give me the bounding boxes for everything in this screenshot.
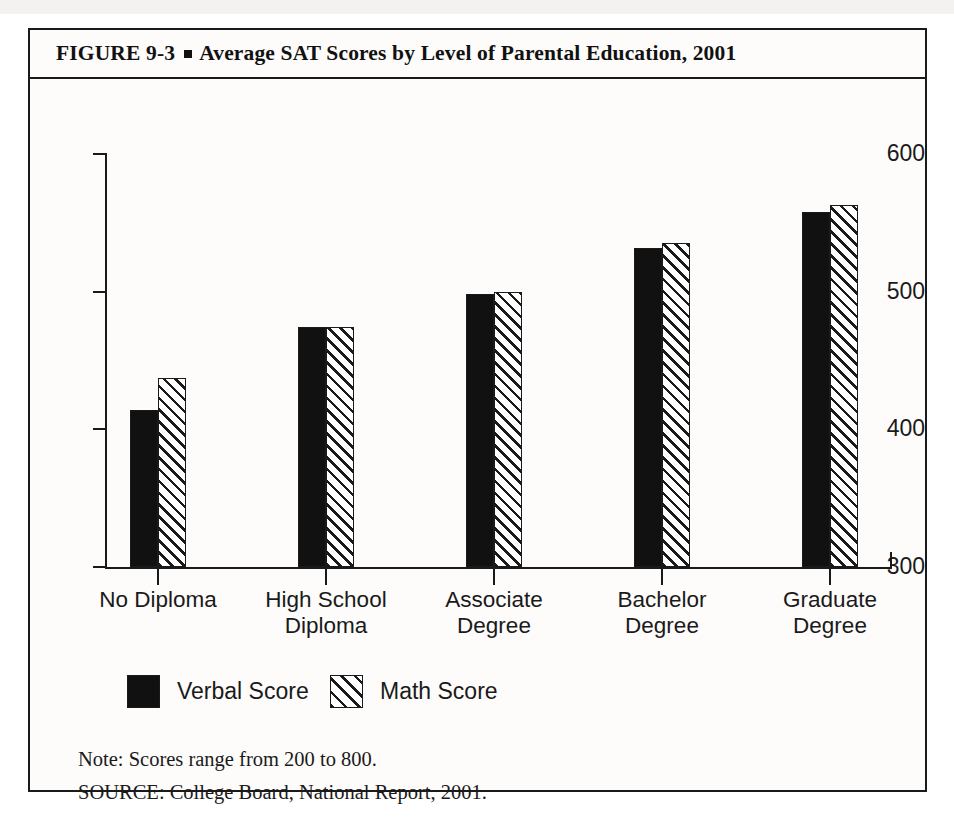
scan-page-edge [0, 0, 954, 14]
y-axis-tick [93, 428, 107, 430]
y-axis-tick-label: 600 [867, 142, 925, 165]
y-axis-tick [93, 566, 107, 568]
y-axis-line [105, 154, 107, 568]
bar-group [634, 79, 690, 567]
bar-verbal [298, 327, 326, 567]
bar-math [158, 378, 186, 567]
y-axis-tick-label: 500 [867, 280, 925, 303]
bar-math [326, 327, 354, 567]
bar-verbal [802, 212, 830, 567]
x-axis-tick [829, 569, 831, 585]
x-axis-tick [493, 569, 495, 585]
bar-math [494, 292, 522, 567]
bar-math [662, 243, 690, 567]
x-axis-line [105, 567, 892, 569]
bar-verbal [130, 410, 158, 567]
square-bullet-icon [184, 50, 192, 58]
y-axis-tick-label: 300 [867, 555, 925, 578]
bar-group [130, 79, 186, 567]
figure-notes: Note: Scores range from 200 to 800. SOUR… [78, 743, 487, 809]
x-axis-tick [661, 569, 663, 585]
figure-title-text: Average SAT Scores by Level of Parental … [199, 41, 736, 65]
y-axis-tick [93, 291, 107, 293]
category-label-line: Degree [715, 613, 945, 639]
source-line: SOURCE: College Board, National Report, … [78, 776, 487, 809]
legend-label-verbal: Verbal Score [177, 678, 309, 705]
bar-verbal [634, 248, 662, 567]
note-line: Note: Scores range from 200 to 800. [78, 743, 487, 776]
y-axis-tick [93, 153, 107, 155]
legend-swatch-verbal-icon [127, 675, 160, 708]
legend-item-math: Math Score [330, 675, 498, 708]
y-axis-tick-label: 400 [867, 417, 925, 440]
legend-label-math: Math Score [380, 678, 498, 705]
x-axis-category-label: GraduateDegree [715, 587, 945, 639]
legend-item-verbal: Verbal Score [127, 675, 309, 708]
chart-plot-area: 300400500600 No DiplomaHigh SchoolDiplom… [30, 79, 925, 792]
bar-math [830, 205, 858, 567]
bar-group [298, 79, 354, 567]
bar-group [466, 79, 522, 567]
x-axis-tick [325, 569, 327, 585]
figure-title-bar: FIGURE 9-3Average SAT Scores by Level of… [30, 30, 925, 79]
legend-swatch-math-icon [330, 675, 363, 708]
page-title: FIGURE 9-3Average SAT Scores by Level of… [30, 41, 736, 66]
bar-group [802, 79, 858, 567]
category-label-line: Graduate [715, 587, 945, 613]
figure-container: FIGURE 9-3Average SAT Scores by Level of… [28, 28, 927, 792]
bar-verbal [466, 294, 494, 567]
chart-legend: Verbal Score Math Score [30, 675, 925, 723]
x-axis-tick [157, 569, 159, 585]
figure-number: FIGURE 9-3 [56, 41, 175, 65]
